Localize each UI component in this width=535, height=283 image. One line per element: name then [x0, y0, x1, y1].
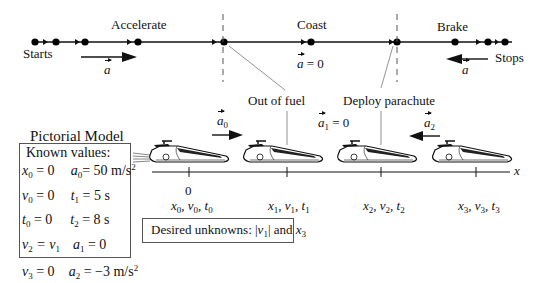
phase-label-coast: Coast — [297, 18, 327, 32]
a2-arrow — [409, 131, 423, 141]
phase-label-accelerate: Accelerate — [111, 18, 167, 32]
known-row: v0 = 0t1 = 5 s — [22, 186, 138, 211]
x-axis-label: x — [514, 164, 520, 178]
known-values-rows: x0 = 0a0= 50 m/s2 v0 = 0t1 = 5 s t0 = 0t… — [22, 158, 138, 283]
pictorial-model-title: Pictorial Model — [30, 129, 124, 143]
known-row: t0 = 0t2 = 8 s — [22, 210, 138, 235]
known-row: x0 = 0a0= 50 m/s2 — [22, 158, 138, 186]
known-row: v2 = v1a1 = 0 — [22, 235, 138, 260]
accel-arrow-left — [446, 54, 462, 64]
known-row: v3 = 0a2 = −3 m/s2 — [22, 259, 138, 283]
point-label-1: x1, v1, t1 — [268, 199, 310, 217]
desired-unknowns-box: Desired unknowns: |v1| and x3 — [142, 218, 294, 243]
a1-label: a1 = 0 — [318, 116, 349, 134]
event-deploy-parachute: Deploy parachute — [343, 94, 435, 108]
a2-label: a2 — [424, 116, 435, 134]
accel-arrow-right — [122, 52, 137, 62]
point-label-2: x2, v2, t2 — [363, 199, 405, 217]
accel-vector-label: a — [104, 63, 111, 77]
a0-arrow — [229, 130, 243, 140]
a0-label: a0 — [217, 114, 228, 132]
coast-accel-label: a = 0 — [297, 57, 324, 71]
starts-label: Starts — [23, 47, 53, 61]
rocket-car-icon — [150, 141, 229, 162]
leader-deploy — [381, 46, 393, 88]
point-label-0: x0, v0, t0 — [171, 199, 213, 217]
brake-accel-label: a — [462, 63, 469, 77]
phase-label-brake: Brake — [437, 20, 468, 34]
stops-label: Stops — [495, 51, 524, 65]
point-label-3: x3, v3, t3 — [458, 199, 500, 217]
event-out-of-fuel: Out of fuel — [248, 94, 305, 108]
origin-tick-label: 0 — [185, 184, 192, 198]
desired-unknowns-text: Desired unknowns: |v1| and x3 — [151, 223, 306, 241]
motion-line — [31, 38, 512, 45]
leader-out-of-fuel — [229, 46, 285, 90]
known-values-box: Known values: x0 = 0a0= 50 m/s2 v0 = 0t1… — [19, 143, 131, 258]
